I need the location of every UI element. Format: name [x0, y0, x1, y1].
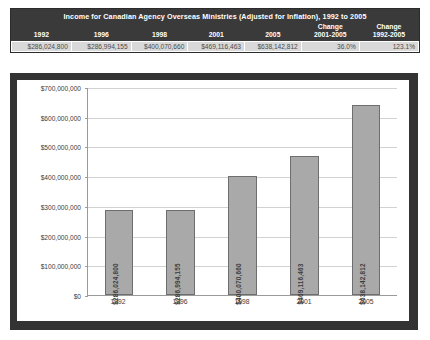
table-header-row: 1992 1996 1998 2001 2005 Change 2001-200… — [12, 23, 419, 42]
value-cell-1998: $400,070,660 — [131, 42, 188, 52]
value-cell-2001: $469,116,463 — [188, 42, 245, 52]
bar-slot: $286,994,155 — [150, 88, 212, 295]
x-axis-tick-label: 1998 — [211, 298, 273, 305]
column-header-1992: 1992 — [12, 23, 72, 42]
y-axis-tick-label: $300,000,000 — [41, 203, 81, 210]
y-axis-tick-label: $700,000,000 — [41, 85, 81, 92]
column-header-2001: 2001 — [188, 23, 245, 42]
y-axis-tick-label: $100,000,000 — [41, 263, 81, 270]
y-axis-tick-label: $400,000,000 — [41, 174, 81, 181]
plot-area: $286,024,800$286,994,155$400,070,660$469… — [87, 88, 397, 296]
column-header-1996: 1996 — [71, 23, 131, 42]
summary-table: Income for Canadian Agency Overseas Mini… — [10, 8, 420, 53]
column-header-1998: 1998 — [131, 23, 188, 42]
bar-2005[interactable]: $638,142,812 — [352, 105, 380, 295]
x-axis: 19921996199820012005 — [87, 298, 397, 305]
bar-slot: $638,142,812 — [335, 88, 397, 295]
change-label-range-2: 1992-2005 — [359, 31, 418, 39]
bar-chart: $700,000,000$600,000,000$500,000,000$400… — [10, 73, 418, 330]
bar-2001[interactable]: $469,116,463 — [290, 156, 318, 295]
y-axis: $700,000,000$600,000,000$500,000,000$400… — [17, 88, 85, 296]
change-label-top-1: Change — [301, 23, 359, 31]
bar-slot: $286,024,800 — [88, 88, 150, 295]
column-header-change-2001-2005: Change 2001-2005 — [301, 23, 359, 42]
x-axis-tick-label: 1992 — [87, 298, 149, 305]
value-cell-change-1992-2005: 123.1% — [359, 42, 418, 52]
y-axis-tick-label: $200,000,000 — [41, 233, 81, 240]
summary-table-grid: Income for Canadian Agency Overseas Mini… — [11, 9, 419, 52]
bar-1992[interactable]: $286,024,800 — [105, 210, 133, 295]
value-cell-1992: $286,024,800 — [12, 42, 72, 52]
bars-layer: $286,024,800$286,994,155$400,070,660$469… — [88, 88, 397, 295]
x-axis-tick-label: 2001 — [273, 298, 335, 305]
bar-slot: $469,116,463 — [273, 88, 335, 295]
chart-canvas: $700,000,000$600,000,000$500,000,000$400… — [17, 80, 409, 321]
value-cell-change-2001-2005: 36.0% — [301, 42, 359, 52]
x-axis-tick-label: 1996 — [149, 298, 211, 305]
y-axis-tick-label: $0 — [74, 293, 81, 300]
value-cell-2005: $638,142,812 — [245, 42, 302, 52]
y-axis-tick-label: $600,000,000 — [41, 114, 81, 121]
change-label-range-1: 2001-2005 — [301, 31, 359, 39]
bar-1996[interactable]: $286,994,155 — [166, 210, 194, 295]
y-axis-tick-mark — [85, 296, 88, 297]
bar-slot: $400,070,660 — [212, 88, 274, 295]
change-label-top-2: Change — [359, 23, 418, 31]
bar-1998[interactable]: $400,070,660 — [228, 176, 256, 295]
table-value-row: $286,024,800 $286,994,155 $400,070,660 $… — [12, 42, 419, 52]
table-title: Income for Canadian Agency Overseas Mini… — [12, 9, 419, 23]
column-header-2005: 2005 — [245, 23, 302, 42]
y-axis-tick-label: $500,000,000 — [41, 144, 81, 151]
x-axis-tick-label: 2005 — [335, 298, 397, 305]
column-header-change-1992-2005: Change 1992-2005 — [359, 23, 418, 42]
table-title-row: Income for Canadian Agency Overseas Mini… — [12, 9, 419, 23]
value-cell-1996: $286,994,155 — [71, 42, 131, 52]
